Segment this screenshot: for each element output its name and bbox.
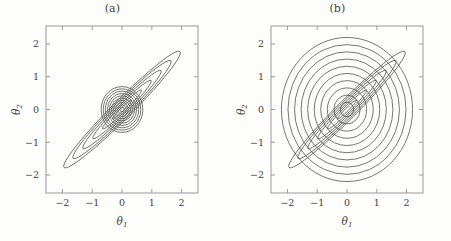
y-axis-label-sub: 2 <box>240 104 249 110</box>
y-tick-label: −1 <box>250 137 264 148</box>
y-tick-label: −2 <box>250 169 264 180</box>
y-tick-label: −1 <box>25 137 39 148</box>
x-tick-label: 0 <box>344 197 350 208</box>
contour-group-a <box>57 45 186 174</box>
y-axis-label: θ2 <box>235 104 249 115</box>
panel-a: (a) −2−1012−2−1012θ1θ2 <box>0 0 225 241</box>
contour-circle-7 <box>301 59 393 160</box>
x-axis-label: θ1 <box>342 215 353 229</box>
x-tick-label: 0 <box>119 197 125 208</box>
x-tick-label: −1 <box>310 197 324 208</box>
x-tick-label: −1 <box>85 197 99 208</box>
contour-circle-5 <box>314 73 380 145</box>
contour-ellipse-5 <box>67 55 176 164</box>
figure-contour-comparison: (a) −2−1012−2−1012θ1θ2 (b) −2−1012−2−101… <box>0 0 451 241</box>
contour-circle-1 <box>120 107 124 112</box>
x-axis-label: θ1 <box>117 215 128 229</box>
contour-ellipse-4 <box>79 66 166 153</box>
panel-b-plot: −2−1012−2−1012θ1θ2 <box>225 0 450 241</box>
plot-frame-b <box>271 26 423 193</box>
contour-circle-4 <box>321 81 373 139</box>
contour-ellipse-2 <box>100 88 143 131</box>
contour-ellipse-5 <box>292 55 401 164</box>
contour-circle-6 <box>308 66 387 152</box>
panel-b: (b) −2−1012−2−1012θ1θ2 <box>225 0 450 241</box>
panel-a-plot: −2−1012−2−1012θ1θ2 <box>0 0 225 241</box>
x-tick-label: 1 <box>374 197 380 208</box>
contour-ellipse-2 <box>325 88 368 131</box>
y-tick-label: 2 <box>33 38 39 49</box>
y-tick-label: 0 <box>33 104 39 115</box>
contour-ellipse-6 <box>57 45 186 174</box>
y-tick-label: 2 <box>258 38 264 49</box>
y-tick-label: 1 <box>33 71 39 82</box>
y-axis-label: θ2 <box>10 104 24 115</box>
x-axis-label-sub: 1 <box>348 220 353 229</box>
x-tick-label: 2 <box>404 197 410 208</box>
y-tick-label: 0 <box>258 104 264 115</box>
contour-ellipse-1 <box>111 99 132 120</box>
x-tick-label: 1 <box>149 197 155 208</box>
contour-circle-5 <box>112 98 133 121</box>
x-tick-label: −2 <box>55 197 69 208</box>
contour-group-b <box>281 37 412 181</box>
contour-ellipse-4 <box>304 66 391 153</box>
x-axis-label-sub: 1 <box>123 220 128 229</box>
y-axis-label-sub: 2 <box>15 104 24 110</box>
x-tick-label: −2 <box>280 197 294 208</box>
y-tick-label: 1 <box>258 71 264 82</box>
contour-ellipse-6 <box>282 45 411 174</box>
x-tick-label: 2 <box>179 197 185 208</box>
contour-circle-2 <box>118 105 126 114</box>
contour-circle-8 <box>295 52 400 167</box>
y-tick-label: −2 <box>25 169 39 180</box>
contour-circle-9 <box>288 45 406 175</box>
plot-frame-a <box>46 26 198 193</box>
contour-ellipse-3 <box>315 77 380 142</box>
